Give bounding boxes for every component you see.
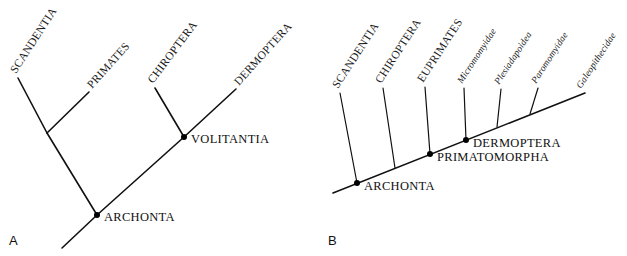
panel-b-node-label-dermoptera: DERMOPTERA bbox=[473, 136, 561, 150]
cladogram-figure: SCANDENTIA PRIMATES CHIROPTERA DERMOPTER… bbox=[0, 0, 627, 256]
panel-b-branch-plesiadapoidea bbox=[497, 89, 501, 127]
panel-b-branch-chiroptera bbox=[383, 88, 395, 168]
panel-b-letter: B bbox=[328, 233, 337, 248]
panel-a-node-label-volitantia: VOLITANTIA bbox=[191, 132, 269, 146]
panel-b-node-dot-dermoptera bbox=[463, 137, 469, 143]
panel-a-tip-label-scandentia: SCANDENTIA bbox=[8, 5, 59, 75]
panel-a-letter: A bbox=[9, 233, 18, 248]
panel-a-tip-label-primates: PRIMATES bbox=[85, 40, 132, 91]
panel-b-node-dot-archonta bbox=[354, 180, 360, 186]
panel-b-branch-scandentia bbox=[340, 93, 357, 183]
panel-a-node-dot-volitantia bbox=[181, 134, 187, 140]
panel-a: SCANDENTIA PRIMATES CHIROPTERA DERMOPTER… bbox=[8, 5, 295, 248]
panel-b-branch-paromomyidae bbox=[530, 88, 538, 114]
panel-b: SCANDENTIA CHIROPTERA EUPRIMATES Micromo… bbox=[328, 16, 618, 248]
panel-a-branch-chiroptera bbox=[155, 88, 184, 137]
panel-b-tip-label-micromomyidae: Micromomyidae bbox=[455, 27, 498, 86]
panel-a-branch-scandentia bbox=[18, 78, 47, 133]
panel-b-branch-micromomyidae bbox=[464, 88, 466, 140]
panel-b-node-dot-primatomorpha bbox=[427, 151, 433, 157]
figure-container: SCANDENTIA PRIMATES CHIROPTERA DERMOPTER… bbox=[0, 0, 627, 256]
panel-a-branch-primates bbox=[47, 92, 89, 133]
panel-a-node-label-archonta: ARCHONTA bbox=[104, 210, 175, 224]
panel-a-branch-archonta-to-euarchonta bbox=[47, 133, 97, 215]
panel-b-node-label-primatomorpha: PRIMATOMORPHA bbox=[437, 150, 549, 164]
panel-a-root-stem bbox=[62, 215, 97, 248]
panel-b-tip-label-plesiadapoidea: Plesiadapoidea bbox=[492, 30, 534, 87]
panel-b-tip-label-paromomyidae: Paromomyidae bbox=[529, 30, 570, 86]
panel-a-branch-archonta-to-volitantia bbox=[97, 137, 184, 215]
panel-a-tip-label-chiroptera: CHIROPTERA bbox=[145, 18, 200, 85]
panel-b-tip-label-euprimates: EUPRIMATES bbox=[415, 16, 465, 84]
panel-a-branch-dermoptera bbox=[184, 89, 236, 137]
panel-a-tip-label-dermoptera: DERMOPTERA bbox=[232, 20, 295, 88]
panel-a-node-dot-archonta bbox=[94, 212, 100, 218]
panel-b-branch-euprimates bbox=[425, 87, 430, 154]
panel-b-tip-label-galeopithecidae: Galeopithecidae bbox=[574, 31, 617, 90]
panel-b-node-label-archonta: ARCHONTA bbox=[364, 179, 435, 193]
